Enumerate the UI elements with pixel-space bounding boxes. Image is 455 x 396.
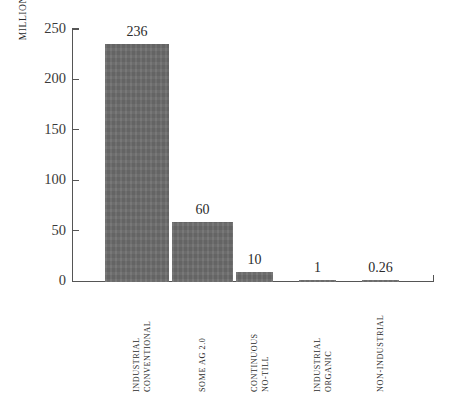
bar (362, 280, 399, 282)
category-label-line: NON-INDUSTRIAL (375, 292, 386, 392)
y-axis-tick-mark (72, 129, 79, 130)
x-axis-category-label: SOME AG 2.0 (197, 292, 211, 392)
y-axis-tick-label: 200 (6, 71, 66, 86)
x-axis-category-label: INDUSTRIALORGANIC (312, 292, 326, 392)
y-axis-tick-label: 50 (6, 223, 66, 238)
bar (299, 280, 336, 282)
bar-chart: MILLIONS OF ACRES 050100150200250 236601… (0, 0, 455, 396)
bar (105, 44, 169, 282)
y-axis-tick-mark (72, 180, 79, 181)
y-axis-line (72, 29, 73, 282)
category-label-line: ORGANIC (323, 292, 334, 392)
x-axis-category-label: CONTINUOUSNO-TILL (249, 292, 263, 392)
y-axis-tick-mark (72, 79, 79, 80)
y-axis-tick-mark (72, 28, 79, 29)
y-axis-tick-label: 0 (6, 273, 66, 288)
category-label-line: INDUSTRIAL (312, 292, 323, 392)
category-label-line: CONVENTIONAL (142, 292, 153, 392)
y-axis-title: MILLIONS OF ACRES (18, 0, 32, 74)
x-axis-category-label: INDUSTRIALCONVENTIONAL (131, 292, 145, 392)
bar (172, 222, 233, 282)
y-axis-tick-mark (72, 230, 79, 231)
x-axis-category-label: NON-INDUSTRIAL (375, 292, 389, 392)
category-label-line: SOME AG 2.0 (197, 292, 208, 392)
y-axis-tick-label: 250 (6, 21, 66, 36)
y-axis-tick-label: 150 (6, 122, 66, 137)
bar-value-label: 236 (97, 25, 177, 39)
category-label-line: CONTINUOUS (249, 292, 260, 392)
category-label-line: NO-TILL (260, 292, 271, 392)
bar-value-label: 0.26 (341, 261, 421, 275)
category-label-line: INDUSTRIAL (131, 292, 142, 392)
bar (236, 272, 273, 282)
bar-value-label: 60 (163, 203, 243, 217)
y-axis-tick-label: 100 (6, 172, 66, 187)
x-axis-end-tick (433, 275, 434, 282)
